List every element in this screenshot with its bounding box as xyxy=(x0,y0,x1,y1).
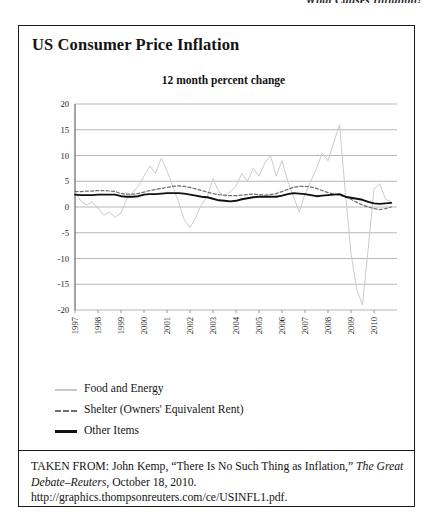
legend-label-food-and-energy: Food and Energy xyxy=(84,382,164,395)
legend-label-shelter: Shelter (Owners' Equivalent Rent) xyxy=(84,403,244,416)
running-header: What Causes Inflation? xyxy=(0,0,423,3)
x-axis-tick-label: 2005 xyxy=(254,317,264,334)
series-line-other-items xyxy=(75,193,391,204)
x-axis-tick-label: 2001 xyxy=(162,317,172,334)
y-axis-tick-label: -10 xyxy=(58,254,69,264)
source-citation: TAKEN FROM: John Kemp, “There Is No Such… xyxy=(31,459,405,506)
x-axis-tick-label: 2010 xyxy=(369,317,379,334)
chart-legend: Food and Energy Shelter (Owners' Equival… xyxy=(55,378,385,441)
legend-swatch-shelter xyxy=(55,410,77,412)
citation-divider xyxy=(19,450,414,451)
x-axis-tick-label: 2002 xyxy=(185,317,195,334)
y-axis-tick-label: -15 xyxy=(58,279,69,289)
legend-item-other-items: Other Items xyxy=(55,420,385,441)
y-axis-tick-label: 0 xyxy=(65,202,69,212)
y-axis-tick-label: 20 xyxy=(60,99,69,109)
legend-swatch-food-and-energy xyxy=(55,389,77,391)
x-axis-tick-label: 1999 xyxy=(116,317,126,334)
figure-title: US Consumer Price Inflation xyxy=(32,35,239,55)
legend-label-other-items: Other Items xyxy=(84,424,139,437)
x-axis-tick-label: 2006 xyxy=(277,316,287,334)
x-axis-tick-label: 1998 xyxy=(93,317,103,334)
legend-swatch-other-items xyxy=(55,430,77,433)
x-axis-tick-label: 2004 xyxy=(231,316,241,334)
legend-item-food-and-energy: Food and Energy xyxy=(55,378,385,399)
x-axis-tick-label: 2000 xyxy=(139,317,149,334)
y-axis-tick-label: 10 xyxy=(60,151,69,161)
x-axis-tick-label: 2009 xyxy=(346,317,356,334)
x-axis-tick-label: 2008 xyxy=(323,317,333,334)
legend-item-shelter: Shelter (Owners' Equivalent Rent) xyxy=(55,399,385,420)
figure-box: US Consumer Price Inflation 12 month per… xyxy=(18,25,415,507)
y-axis-tick-label: -5 xyxy=(62,228,69,238)
y-axis-tick-label: 5 xyxy=(65,176,69,186)
y-axis-tick-label: 15 xyxy=(60,125,69,135)
series-line-food-and-energy xyxy=(75,125,391,305)
x-axis-tick-label: 2007 xyxy=(300,316,310,334)
figure-subtitle: 12 month percent change xyxy=(19,74,414,86)
line-chart: 20151050-5-10-15-20199719981999200020012… xyxy=(35,98,401,368)
chart-svg: 20151050-5-10-15-20199719981999200020012… xyxy=(35,98,401,368)
book-page: What Causes Inflation? US Consumer Price… xyxy=(0,0,435,528)
citation-prefix: TAKEN FROM: John Kemp, “There Is No Such… xyxy=(31,460,356,473)
y-axis-tick-label: -20 xyxy=(58,305,69,315)
x-axis-tick-label: 2003 xyxy=(208,317,218,334)
x-axis-tick-label: 1997 xyxy=(70,316,80,334)
